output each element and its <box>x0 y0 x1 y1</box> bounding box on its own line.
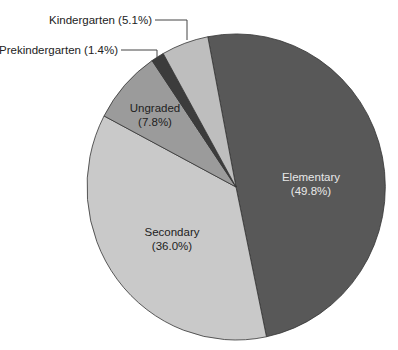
elementary-label-name: Elementary <box>282 171 340 183</box>
kindergarten-label: Kindergarten (5.1%) <box>49 14 152 26</box>
ungraded-label-name: Ungraded <box>130 102 181 114</box>
pie-slices <box>87 34 385 340</box>
secondary-label-pct: (36.0%) <box>152 240 192 252</box>
kindergarten-leader-line <box>155 20 187 40</box>
prekindergarten-label: Prekindergarten (1.4%) <box>0 44 118 56</box>
ungraded-label-pct: (7.8%) <box>138 116 172 128</box>
secondary-label-name: Secondary <box>145 226 200 238</box>
prekindergarten-leader-line <box>121 50 157 57</box>
pie-chart: Kindergarten (5.1%) Prekindergarten (1.4… <box>0 0 398 350</box>
elementary-label-pct: (49.8%) <box>291 185 331 197</box>
